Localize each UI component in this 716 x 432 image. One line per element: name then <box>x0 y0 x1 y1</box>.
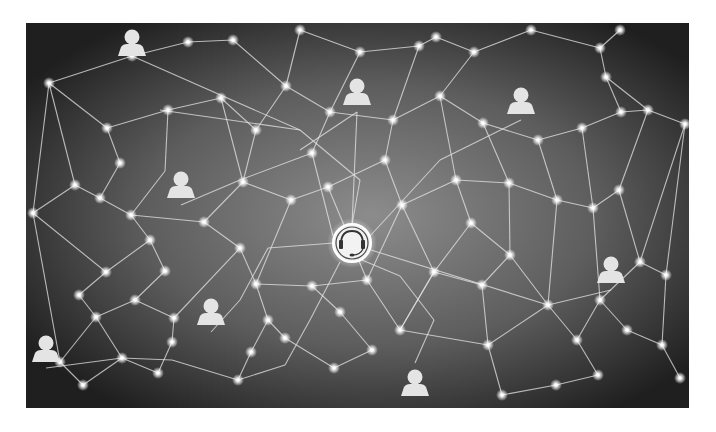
network-node <box>27 207 39 219</box>
network-node <box>159 265 171 277</box>
network-node <box>660 269 672 281</box>
network-node <box>334 306 346 318</box>
network-graphic <box>26 23 689 408</box>
network-node <box>576 122 588 134</box>
network-node <box>615 106 627 118</box>
network-node <box>43 77 55 89</box>
network-node <box>496 389 508 401</box>
network-node <box>237 176 249 188</box>
network-node <box>324 106 336 118</box>
network-node <box>387 114 399 126</box>
network-node <box>306 147 318 159</box>
network-node <box>656 339 668 351</box>
network-node <box>129 294 141 306</box>
network-node <box>428 266 440 278</box>
network-node <box>674 372 686 384</box>
network-node <box>468 46 480 58</box>
network-node <box>116 352 128 364</box>
network-node <box>592 369 604 381</box>
network-node <box>600 71 612 83</box>
network-node <box>152 367 164 379</box>
network-node <box>94 192 106 204</box>
network-node <box>571 334 583 346</box>
support-hub <box>327 218 377 268</box>
network-node <box>366 344 378 356</box>
network-node <box>542 299 554 311</box>
network-node <box>430 31 442 43</box>
network-node <box>250 278 262 290</box>
network-node <box>328 362 340 374</box>
network-node <box>101 122 113 134</box>
network-node <box>285 194 297 206</box>
network-node <box>245 346 257 358</box>
network-node <box>90 311 102 323</box>
network-node <box>306 280 318 292</box>
network-node <box>100 266 112 278</box>
network-node <box>279 332 291 344</box>
network-node <box>394 324 406 336</box>
network-node <box>450 174 462 186</box>
network-node <box>614 24 626 36</box>
network-node <box>476 279 488 291</box>
network-node <box>434 90 446 102</box>
network-node <box>503 177 515 189</box>
network-node <box>125 209 137 221</box>
network-node <box>280 80 292 92</box>
network-node <box>198 216 210 228</box>
network-node <box>621 324 633 336</box>
network-node <box>182 36 194 48</box>
network-node <box>250 124 262 136</box>
network-node <box>361 274 373 286</box>
network-node <box>550 379 562 391</box>
network-node <box>162 104 174 116</box>
network-node <box>73 289 85 301</box>
network-node <box>166 336 178 348</box>
network-node <box>215 92 227 104</box>
network-node <box>227 34 239 46</box>
network-node <box>465 217 477 229</box>
network-node <box>77 379 89 391</box>
network-node <box>396 199 408 211</box>
network-node <box>69 179 81 191</box>
network-node <box>413 40 425 52</box>
network-node <box>232 374 244 386</box>
network-node <box>114 157 126 169</box>
network-node <box>594 294 606 306</box>
network-node <box>234 242 246 254</box>
network-node <box>532 134 544 146</box>
network-node <box>322 181 334 193</box>
network-node <box>262 314 274 326</box>
network-node <box>504 249 516 261</box>
network-node <box>613 184 625 196</box>
network-node <box>294 24 306 36</box>
network-node <box>551 194 563 206</box>
network-node <box>634 256 646 268</box>
network-node <box>642 104 654 116</box>
network-node <box>482 339 494 351</box>
network-node <box>594 42 606 54</box>
network-illustration <box>26 23 689 408</box>
network-node <box>477 117 489 129</box>
network-node <box>168 312 180 324</box>
network-node <box>144 234 156 246</box>
network-node <box>525 24 537 36</box>
network-node <box>354 46 366 58</box>
network-node <box>587 202 599 214</box>
network-node <box>379 154 391 166</box>
